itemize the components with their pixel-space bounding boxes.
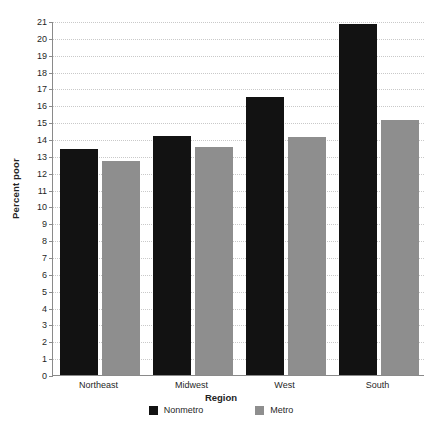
bar-midwest-nonmetro[interactable] <box>153 136 191 375</box>
y-axis-tick-label: 3 <box>42 320 47 330</box>
y-axis-tick-label: 13 <box>37 152 47 162</box>
legend-swatch-nonmetro <box>149 406 158 415</box>
bar-group <box>53 22 146 375</box>
y-axis-tick-label: 0 <box>42 371 47 381</box>
bar-west-nonmetro[interactable] <box>246 97 284 375</box>
y-axis-tick-label: 1 <box>42 354 47 364</box>
y-axis-tick-label: 5 <box>42 287 47 297</box>
y-axis-tick-label: 19 <box>37 51 47 61</box>
bars-layer <box>53 22 424 375</box>
legend-label-metro: Metro <box>270 405 293 415</box>
y-axis-title: Percent poor <box>7 0 23 376</box>
x-axis-tick-label-midwest: Midwest <box>175 380 208 390</box>
y-axis-tick-label: 9 <box>42 219 47 229</box>
y-axis-title-label: Percent poor <box>10 158 21 219</box>
y-axis-tick-label: 11 <box>38 186 47 196</box>
y-axis-tick-label: 20 <box>37 34 47 44</box>
x-axis-title: Region <box>0 392 442 403</box>
bar-south-metro[interactable] <box>381 120 419 375</box>
y-axis-tick-label: 16 <box>37 101 47 111</box>
y-axis-tick-label: 4 <box>42 304 47 314</box>
figure-container: Percent poor 012345678910111213141516171… <box>0 0 442 427</box>
legend-swatch-metro <box>255 406 264 415</box>
y-axis-tick-label: 8 <box>42 236 47 246</box>
y-axis-tick-label: 2 <box>42 337 47 347</box>
y-axis-tick-label: 15 <box>37 118 47 128</box>
y-axis-tick-label: 17 <box>37 84 47 94</box>
y-axis-tick-label: 12 <box>37 169 47 179</box>
x-axis-tick-label-northeast: Northeast <box>79 380 118 390</box>
y-axis-tick-label: 21 <box>37 17 47 27</box>
chart-legend: NonmetroMetro <box>0 405 442 415</box>
bar-group <box>332 22 425 375</box>
legend-item-nonmetro[interactable]: Nonmetro <box>149 405 204 415</box>
bar-northeast-nonmetro[interactable] <box>60 149 98 375</box>
y-axis-tick-label: 14 <box>37 135 47 145</box>
y-axis-tick-label: 6 <box>42 270 47 280</box>
plot-area: 0123456789101112131415161718192021 <box>52 22 424 376</box>
legend-label-nonmetro: Nonmetro <box>164 405 204 415</box>
x-axis-tick-label-west: West <box>274 380 294 390</box>
y-axis-tick-label: 7 <box>42 253 47 263</box>
y-axis-tick-label: 10 <box>37 202 47 212</box>
x-axis-tick-label-south: South <box>366 380 390 390</box>
bar-group <box>239 22 332 375</box>
bar-south-nonmetro[interactable] <box>339 24 377 375</box>
bar-group <box>146 22 239 375</box>
y-axis-tick-label: 18 <box>37 68 47 78</box>
legend-item-metro[interactable]: Metro <box>255 405 293 415</box>
y-axis-tick-mark <box>49 376 53 377</box>
bar-west-metro[interactable] <box>288 137 326 375</box>
bar-northeast-metro[interactable] <box>102 161 140 375</box>
bar-midwest-metro[interactable] <box>195 147 233 375</box>
